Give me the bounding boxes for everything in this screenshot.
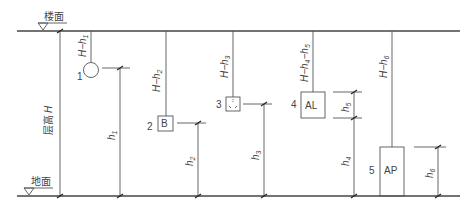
ground-level-marker: 地面 [24,175,53,195]
item-5: AP 5 H−h6 h6 [369,31,446,198]
floor-label: 楼面 [44,10,64,22]
item-4: AL 4 H−h4−h5 h5 h4 [291,31,362,198]
item-1-top-label: H−h1 [77,34,89,57]
svg-text:AP: AP [384,165,398,176]
item-2: B 2 H−h2 h2 [147,31,206,198]
svg-text:AL: AL [305,100,318,111]
installation-height-diagram: 楼面 地面 层高H 1 H−h1 [0,0,474,211]
item-2-number: 2 [147,121,153,132]
item-4-top-label: H−h4−h5 [299,44,311,82]
item-2-top-label: H−h2 [151,69,163,92]
item-5-top-label: H−h6 [378,55,390,78]
item-3-dim-label: h3 [250,150,262,160]
item-2-dim-label: h2 [184,156,196,166]
floor-level-marker: 楼面 [38,10,67,30]
item-3-number: 3 [216,99,222,110]
ground-label: 地面 [31,175,51,187]
item-1-number: 1 [77,71,83,82]
item-5-number: 5 [369,165,375,176]
item-4-dim-label: h4 [340,156,352,166]
item-4-number: 4 [291,99,297,110]
storey-height-dimension: 层高H [42,29,63,198]
circle-symbol-icon [84,63,99,78]
svg-text:B: B [161,118,168,129]
storey-height-label: 层高H [42,105,54,135]
item-1-dim-label: h1 [106,130,118,140]
item-4-dim2-label: h5 [340,102,352,112]
item-5-dim-label: h6 [424,168,436,178]
item-3: 3 H−h3 h3 [216,31,272,198]
item-1: 1 H−h1 h1 [77,31,130,198]
item-3-top-label: H−h3 [219,55,231,78]
